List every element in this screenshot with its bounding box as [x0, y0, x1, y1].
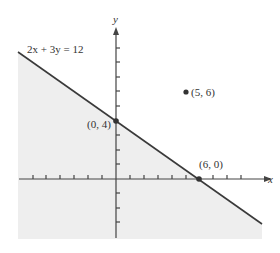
point-test — [183, 89, 188, 94]
point-intercept-x-label: (6, 0) — [199, 158, 223, 171]
equation-label: 2x + 3y = 12 — [27, 43, 83, 55]
point-intercept-x — [196, 176, 202, 182]
chart: y x 2x + 3y = 12 (0, 4) (6, 0) (5, 6) — [0, 0, 280, 253]
point-test-label: (5, 6) — [191, 86, 215, 99]
point-intercept-y-label: (0, 4) — [87, 118, 111, 131]
point-intercept-y — [113, 118, 119, 124]
x-axis-label: x — [267, 173, 273, 185]
shaded-region — [18, 52, 262, 239]
y-axis-label: y — [112, 13, 118, 25]
y-axis-arrow-icon — [113, 27, 119, 35]
